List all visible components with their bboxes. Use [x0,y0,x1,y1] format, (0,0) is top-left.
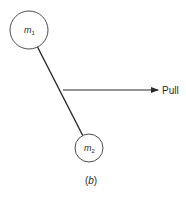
connecting-rod [37,46,83,136]
figure-caption: (b) [85,175,97,186]
pull-label: Pull [162,85,179,96]
mass-m2: m2 [75,134,103,162]
dumbbell-pull-diagram: m1 m2 Pull (b) [0,0,186,203]
mass-m1: m1 [10,11,48,49]
